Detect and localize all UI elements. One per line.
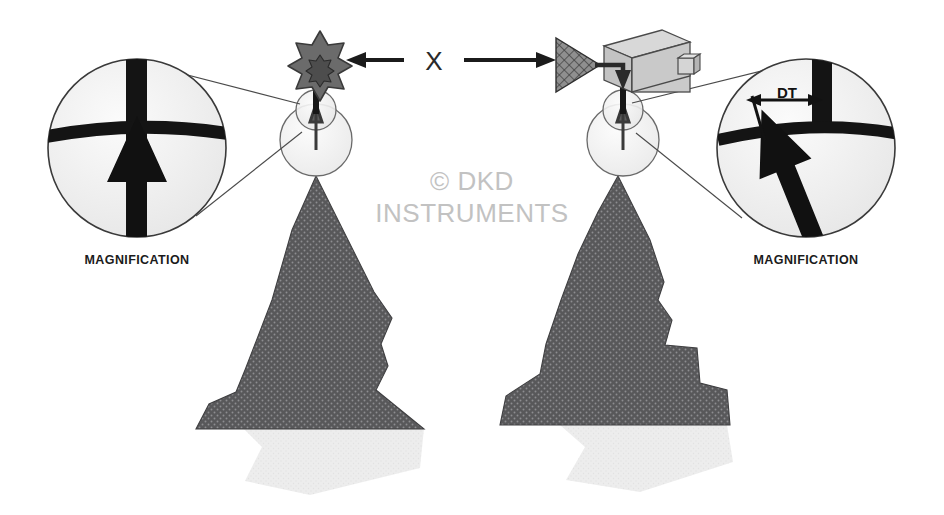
- right-magnification-label: MAGNIFICATION: [754, 253, 859, 267]
- watermark-line-2: INSTRUMENTS: [375, 198, 568, 228]
- right-reticle-vertical: [812, 55, 832, 131]
- left-magnification-label: MAGNIFICATION: [85, 253, 190, 267]
- star-burst-inner-icon: [306, 55, 334, 87]
- watermark-line-1: © DKD: [430, 166, 514, 196]
- diagram-canvas: © DKD INSTRUMENTS: [0, 0, 944, 515]
- center-x-label: X: [425, 46, 442, 76]
- dt-label: DT: [777, 84, 797, 101]
